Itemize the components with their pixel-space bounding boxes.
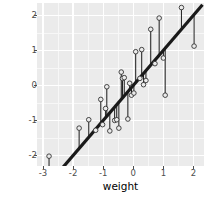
data-point: [98, 97, 103, 102]
x-tick-label: 2: [191, 169, 196, 178]
data-layer: [37, 3, 204, 166]
data-point: [119, 70, 124, 75]
x-tick-label: 0: [131, 169, 136, 178]
data-point: [126, 117, 131, 122]
data-point: [103, 106, 108, 111]
data-point: [117, 126, 122, 131]
plot-panel: [37, 3, 204, 166]
y-tick-label: -1: [29, 116, 37, 125]
data-point: [122, 75, 127, 80]
data-point: [108, 129, 113, 134]
data-point: [114, 117, 119, 122]
x-tick-label: -1: [99, 169, 107, 178]
data-point: [148, 27, 153, 32]
data-point: [105, 84, 110, 89]
data-point: [138, 76, 143, 81]
data-point: [179, 5, 184, 10]
y-tick-label: 2: [32, 11, 37, 20]
data-point: [47, 154, 52, 159]
data-point: [163, 93, 168, 98]
data-point: [144, 78, 149, 83]
data-point: [100, 122, 105, 127]
data-point: [93, 128, 98, 133]
data-point: [133, 49, 138, 54]
x-axis-label: weight: [37, 180, 204, 192]
x-tick-label: -2: [69, 169, 77, 178]
y-tick-label: 1: [32, 46, 37, 55]
data-point: [153, 61, 158, 66]
data-point: [139, 47, 144, 52]
residual-segments-group: [49, 8, 194, 166]
data-point: [192, 44, 197, 49]
x-tick-label: 1: [161, 169, 166, 178]
data-point: [161, 56, 166, 61]
data-point: [132, 91, 137, 96]
scatter-plot-figure: -3-2-1012-2-1012 weight disc: [0, 0, 209, 201]
data-point: [86, 117, 91, 122]
y-tick-label: -2: [29, 151, 37, 160]
y-tick-label: 0: [32, 81, 37, 90]
x-tick-label: -3: [39, 169, 47, 178]
data-point: [127, 81, 132, 86]
data-point: [157, 16, 162, 21]
data-point: [77, 126, 82, 131]
